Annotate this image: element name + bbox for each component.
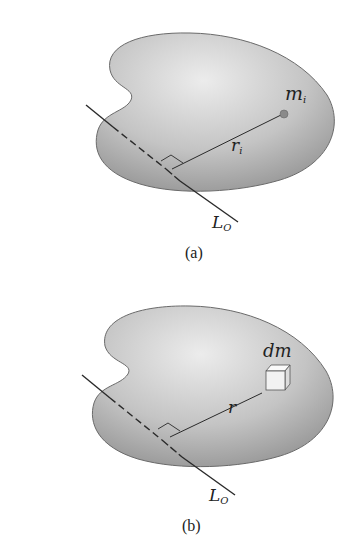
rigid-body-shape (92, 306, 333, 467)
axis-label-lo: LO (209, 487, 229, 506)
axis-line-outside-top (82, 375, 110, 398)
axis-label-lo: LO (212, 214, 232, 233)
mass-label-mi: mi (285, 84, 306, 105)
radius-label-r: r (228, 399, 236, 416)
figure-a: mi ri LO (a) (0, 0, 351, 271)
rigid-body-diagram-a (0, 0, 351, 271)
caption-a: (a) (185, 245, 203, 261)
caption-b: (b) (182, 518, 201, 534)
radius-label-ri: ri (231, 137, 242, 156)
figure-b: dm r LO (b) (0, 271, 351, 542)
mass-label-dm: dm (263, 342, 292, 360)
cube-icon (266, 365, 290, 390)
point-mass-icon (280, 110, 288, 118)
rigid-body-shape (96, 33, 334, 191)
rigid-body-diagram-b (0, 271, 351, 542)
